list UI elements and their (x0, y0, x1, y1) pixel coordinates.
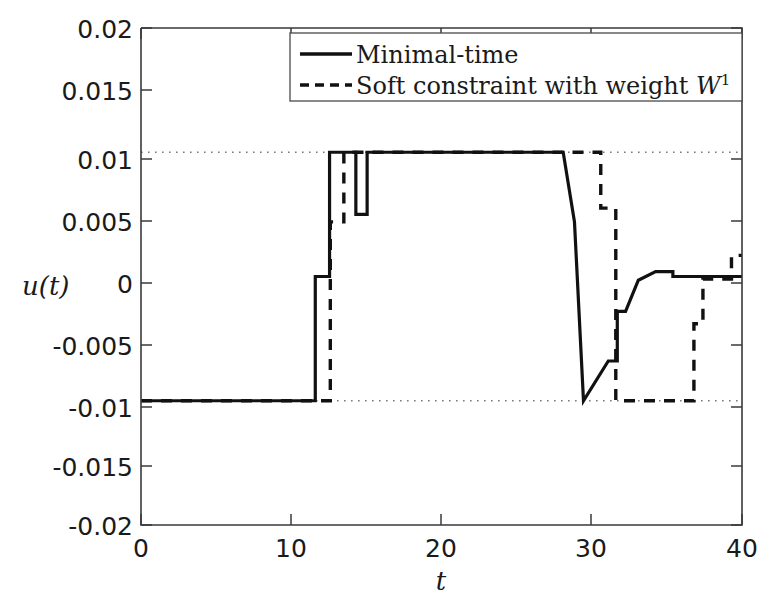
axes-frame (141, 28, 742, 525)
series-soft-constraint (141, 152, 742, 401)
legend-label-soft-constraint-superscript: 1 (721, 71, 731, 89)
gridlines (141, 152, 742, 401)
ytick-label-6: -0.01 (68, 394, 133, 423)
ytick-label-7: -0.015 (52, 453, 133, 482)
chart-figure: 0.02 0.015 0.01 0.005 0 -0.005 -0.01 -0.… (0, 0, 765, 603)
x-axis-label: t (436, 566, 447, 596)
legend-label-soft-constraint-symbol: W (696, 72, 723, 100)
legend-label-minimal-time: Minimal-time (356, 41, 519, 69)
x-axis-tick-labels: 0 10 20 30 40 (133, 534, 758, 563)
legend-label-soft-constraint: Soft constraint with weight W1 (356, 71, 730, 100)
legend-label-soft-constraint-prefix: Soft constraint with weight (356, 72, 696, 100)
ytick-label-3: 0.005 (61, 208, 133, 237)
xtick-label-1: 10 (275, 534, 307, 563)
ytick-label-4: 0 (117, 270, 133, 299)
xtick-label-0: 0 (133, 534, 149, 563)
control-signal-plot: 0.02 0.015 0.01 0.005 0 -0.005 -0.01 -0.… (0, 0, 765, 603)
y-axis-label: u(t) (22, 271, 69, 301)
ytick-label-5: -0.005 (52, 332, 133, 361)
xtick-label-3: 30 (575, 534, 607, 563)
xtick-label-4: 40 (726, 534, 758, 563)
ytick-label-8: -0.02 (68, 512, 133, 541)
series-minimal-time (141, 152, 742, 401)
legend: Minimal-time Soft constraint with weight… (290, 33, 742, 101)
ytick-label-1: 0.015 (61, 77, 133, 106)
y-axis-ticks (141, 28, 742, 525)
ytick-label-2: 0.01 (77, 146, 133, 175)
ytick-label-0: 0.02 (77, 15, 133, 44)
x-axis-ticks (141, 28, 742, 525)
xtick-label-2: 20 (425, 534, 457, 563)
